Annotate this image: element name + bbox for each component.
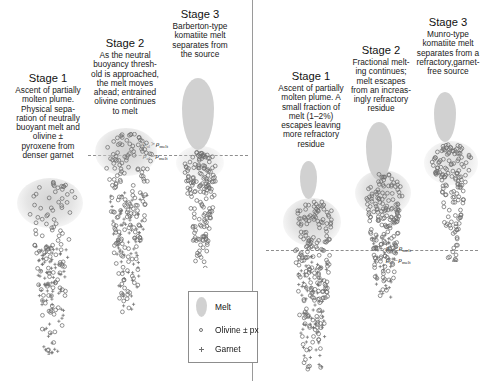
right-stage3-plume bbox=[420, 142, 484, 262]
right-stage3-melt-blob bbox=[434, 92, 456, 142]
left-stage3-title: Stage 3 bbox=[155, 8, 245, 21]
right-stage3-title: Stage 3 bbox=[404, 16, 492, 29]
melt-icon bbox=[190, 297, 212, 317]
legend-item-melt: Melt bbox=[190, 297, 231, 317]
left-stage3-melt-blob bbox=[182, 78, 214, 150]
right-stage3-body: Munro-type komatiite melt separates from… bbox=[404, 30, 492, 76]
legend-label-olivine: Olivine ± px bbox=[215, 325, 259, 335]
right-stage1-melt-blob bbox=[300, 161, 317, 199]
olivine-icon bbox=[190, 328, 212, 332]
left-stage1-plume bbox=[8, 180, 96, 355]
right-stage2-plume bbox=[350, 172, 418, 300]
legend-label-garnet: Garnet bbox=[215, 344, 241, 354]
legend-item-garnet: Garnet bbox=[190, 344, 241, 354]
garnet-icon bbox=[190, 347, 212, 352]
left-stage2-plume bbox=[88, 132, 168, 317]
left-stage3-body: Barberton-type komatiite melt separates … bbox=[155, 22, 245, 59]
legend-item-olivine: Olivine ± px bbox=[190, 325, 259, 335]
left-stage3-plume bbox=[172, 148, 230, 268]
right-stage1-plume bbox=[278, 198, 348, 376]
legend: Melt Olivine ± px Garnet bbox=[188, 291, 258, 363]
left-stage3-caption: Stage 3 Barberton-type komatiite melt se… bbox=[155, 8, 245, 59]
komatiite-plume-figure: Stage 1 Ascent of partially molten plume… bbox=[0, 0, 492, 381]
legend-label-melt: Melt bbox=[215, 302, 231, 312]
left-stage2-body: As the neutral buoyancy thresh- old is a… bbox=[79, 51, 171, 116]
right-stage3-caption: Stage 3 Munro-type komatiite melt separa… bbox=[404, 16, 492, 76]
